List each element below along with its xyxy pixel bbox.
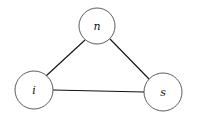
node-n: n (79, 8, 115, 44)
node-i: i (15, 71, 53, 109)
node-s-label: s (160, 86, 166, 99)
graph-diagram: n i s (0, 0, 198, 122)
node-i-label: i (32, 84, 36, 97)
edge-n-i (46, 40, 85, 76)
node-s: s (144, 73, 182, 111)
node-n-label: n (93, 20, 100, 33)
edge-n-s (110, 39, 149, 79)
edge-i-s (53, 90, 144, 92)
